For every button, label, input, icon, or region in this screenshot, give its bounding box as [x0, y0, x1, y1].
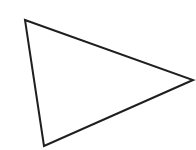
triangle-svg: [0, 0, 196, 150]
drawing-canvas: [0, 0, 196, 150]
